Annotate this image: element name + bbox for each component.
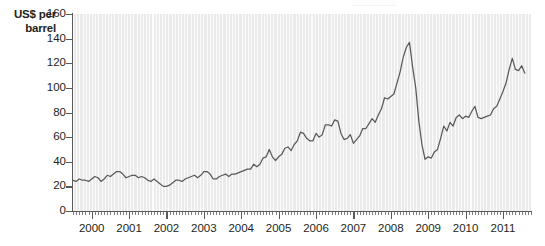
x-tick-minor — [263, 212, 264, 215]
x-tick-minor — [291, 212, 292, 215]
x-tick-minor — [363, 212, 364, 215]
x-tick-minor — [163, 212, 164, 215]
x-tick-major — [279, 212, 280, 219]
x-tick-minor — [456, 212, 457, 215]
series-line-crude-oil-price — [73, 14, 531, 211]
x-tick-minor — [506, 212, 507, 215]
x-tick-minor — [313, 212, 314, 215]
x-tick-minor — [431, 212, 432, 215]
y-tick-160 — [66, 14, 72, 15]
x-tick-minor — [484, 212, 485, 215]
x-tick-label-2011: 2011 — [480, 222, 526, 234]
x-tick-minor — [328, 212, 329, 215]
x-tick-major — [204, 212, 205, 219]
x-tick-minor — [79, 212, 80, 215]
x-tick-minor — [232, 212, 233, 215]
x-tick-major — [353, 212, 354, 219]
x-tick-minor — [145, 212, 146, 215]
x-tick-minor — [229, 212, 230, 215]
x-tick-minor — [307, 212, 308, 215]
plot-area — [73, 14, 531, 211]
x-tick-minor — [347, 212, 348, 215]
x-tick-minor — [487, 212, 488, 215]
x-tick-minor — [447, 212, 448, 215]
x-tick-minor — [89, 212, 90, 215]
x-tick-minor — [107, 212, 108, 215]
x-tick-minor — [413, 212, 414, 215]
x-tick-minor — [179, 212, 180, 215]
x-tick-minor — [335, 212, 336, 215]
y-tick-100 — [66, 88, 72, 89]
x-tick-minor — [198, 212, 199, 215]
x-tick-minor — [120, 212, 121, 215]
x-tick-minor — [416, 212, 417, 215]
x-tick-minor — [478, 212, 479, 215]
y-tick-40 — [66, 162, 72, 163]
x-tick-minor — [525, 212, 526, 215]
x-tick-minor — [519, 212, 520, 215]
x-tick-minor — [528, 212, 529, 215]
y-tick-label-0: 0 — [40, 204, 66, 216]
x-tick-minor — [138, 212, 139, 215]
x-tick-minor — [472, 212, 473, 215]
y-axis-line — [72, 13, 73, 212]
x-tick-minor — [381, 212, 382, 215]
x-tick-minor — [350, 212, 351, 215]
x-tick-minor — [210, 212, 211, 215]
x-tick-major — [466, 212, 467, 219]
x-tick-major — [166, 212, 167, 219]
x-tick-minor — [95, 212, 96, 215]
x-tick-minor — [385, 212, 386, 215]
x-tick-minor — [344, 212, 345, 215]
x-tick-minor — [360, 212, 361, 215]
y-tick-120 — [66, 63, 72, 64]
x-tick-minor — [195, 212, 196, 215]
x-tick-minor — [462, 212, 463, 215]
x-tick-minor — [469, 212, 470, 215]
x-tick-minor — [238, 212, 239, 215]
x-tick-minor — [101, 212, 102, 215]
x-tick-minor — [201, 212, 202, 215]
y-tick-80 — [66, 113, 72, 114]
x-tick-minor — [332, 212, 333, 215]
y-tick-140 — [66, 39, 72, 40]
x-tick-minor — [269, 212, 270, 215]
x-tick-minor — [173, 212, 174, 215]
x-tick-minor — [372, 212, 373, 215]
x-tick-minor — [444, 212, 445, 215]
x-tick-minor — [82, 212, 83, 215]
x-tick-minor — [160, 212, 161, 215]
x-tick-minor — [285, 212, 286, 215]
x-tick-minor — [319, 212, 320, 215]
x-tick-major — [428, 212, 429, 219]
x-tick-minor — [375, 212, 376, 215]
x-tick-major — [391, 212, 392, 219]
x-tick-minor — [123, 212, 124, 215]
x-tick-minor — [357, 212, 358, 215]
x-tick-minor — [366, 212, 367, 215]
cropped-artifact — [352, 0, 396, 6]
x-tick-minor — [481, 212, 482, 215]
x-tick-minor — [422, 212, 423, 215]
y-tick-20 — [66, 186, 72, 187]
y-tick-label-100: 100 — [40, 81, 66, 93]
x-tick-minor — [154, 212, 155, 215]
x-tick-minor — [219, 212, 220, 215]
x-tick-minor — [450, 212, 451, 215]
x-tick-minor — [142, 212, 143, 215]
x-tick-minor — [397, 212, 398, 215]
x-tick-minor — [403, 212, 404, 215]
x-tick-minor — [388, 212, 389, 215]
x-tick-major — [241, 212, 242, 219]
x-tick-minor — [300, 212, 301, 215]
x-tick-minor — [104, 212, 105, 215]
x-tick-minor — [226, 212, 227, 215]
x-tick-major — [129, 212, 130, 219]
x-tick-minor — [325, 212, 326, 215]
x-tick-minor — [394, 212, 395, 215]
y-tick-label-40: 40 — [40, 155, 66, 167]
x-tick-minor — [294, 212, 295, 215]
x-tick-minor — [157, 212, 158, 215]
y-tick-label-60: 60 — [40, 130, 66, 142]
x-tick-minor — [257, 212, 258, 215]
